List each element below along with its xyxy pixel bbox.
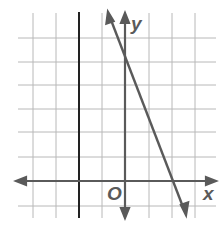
y-axis-label: y bbox=[130, 13, 143, 34]
x-axis-label: x bbox=[202, 183, 215, 204]
line-top-arrow-icon bbox=[107, 12, 114, 24]
y-axis-up-arrow-icon bbox=[121, 13, 129, 23]
origin-label: O bbox=[107, 183, 122, 204]
line-bottom-arrow-icon bbox=[181, 203, 188, 216]
coordinate-graph: y x O bbox=[0, 0, 224, 230]
y-axis-down-arrow-icon bbox=[121, 208, 129, 218]
x-axis-left-arrow-icon bbox=[16, 177, 26, 185]
y-axis bbox=[121, 13, 129, 218]
